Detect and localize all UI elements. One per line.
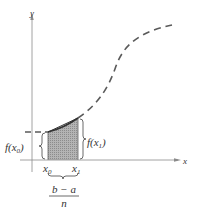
trapezoid-diagram: y x f(x0) f(x1) x0 x1 b − a n [0,0,200,220]
x-axis-arrow-icon [174,158,181,161]
y-axis-label: y [29,8,34,18]
width-numerator: b − a [52,183,76,195]
f-x0-label: f(x0) [5,141,24,155]
x-axis-label: x [182,156,187,166]
f-x1-label: f(x1) [87,136,106,150]
width-denominator: n [61,197,67,209]
x1-label: x1 [71,162,80,176]
x0-label: x0 [42,162,52,176]
shaded-trapezoid [48,118,78,160]
brace-f-x0 [39,133,45,159]
curve-right-dashed [78,25,172,118]
brace-f-x1 [80,119,86,159]
